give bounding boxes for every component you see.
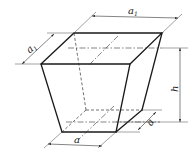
dimension-labels: a1 a1 h a a [24,5,180,145]
visible-edges [41,33,162,132]
diagram-canvas: a1 a1 h a a [0,0,195,161]
label-top-length: a1 [128,5,138,17]
label-height: h [169,86,180,92]
label-top-width: a1 [24,40,39,55]
frustum-diagram: a1 a1 h a a [0,0,195,161]
label-bottom-length: a [74,134,80,145]
